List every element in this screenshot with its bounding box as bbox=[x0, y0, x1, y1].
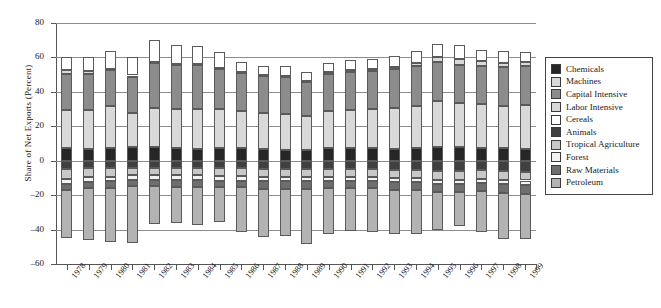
bar-segment bbox=[411, 161, 422, 170]
bar-segment bbox=[454, 59, 465, 65]
bar-segment bbox=[149, 168, 160, 175]
bar-group[interactable] bbox=[127, 23, 138, 264]
bar-group[interactable] bbox=[520, 23, 531, 264]
bar-group[interactable] bbox=[214, 23, 225, 264]
legend-item[interactable]: Animals bbox=[551, 126, 648, 139]
bar-group[interactable] bbox=[367, 23, 378, 264]
bar-segment bbox=[498, 67, 509, 106]
bar-segment bbox=[149, 186, 160, 225]
bar-segment bbox=[105, 161, 116, 169]
bar-segment bbox=[411, 182, 422, 190]
bar-segment bbox=[454, 103, 465, 147]
bar-segment bbox=[411, 148, 422, 161]
legend-item[interactable]: Petroleum bbox=[551, 176, 648, 189]
bar-group[interactable] bbox=[411, 23, 422, 264]
bar-series-layer bbox=[56, 23, 536, 264]
bar-segment bbox=[454, 184, 465, 192]
legend-item-label: Petroleum bbox=[566, 178, 603, 187]
bar-group[interactable] bbox=[498, 23, 509, 264]
legend-item[interactable]: Labor Intensive bbox=[551, 101, 648, 114]
bar-segment bbox=[389, 149, 400, 161]
bar-group[interactable] bbox=[61, 23, 72, 264]
legend-item[interactable]: Raw Materials bbox=[551, 164, 648, 177]
bar-group[interactable] bbox=[323, 23, 334, 264]
bar-segment bbox=[171, 65, 182, 109]
bar-segment bbox=[345, 72, 356, 110]
x-tick-mark bbox=[307, 264, 308, 270]
bar-segment bbox=[498, 106, 509, 148]
bar-segment bbox=[214, 181, 225, 188]
y-tick-label: –60 bbox=[4, 258, 44, 268]
bar-segment bbox=[389, 170, 400, 178]
bar-segment bbox=[83, 71, 94, 74]
bar-segment bbox=[236, 72, 247, 74]
bar-segment bbox=[454, 65, 465, 103]
bar-segment bbox=[258, 169, 269, 177]
legend-item[interactable]: Cereals bbox=[551, 113, 648, 126]
bar-segment bbox=[258, 113, 269, 149]
bar-segment bbox=[192, 46, 203, 64]
bar-group[interactable] bbox=[149, 23, 160, 264]
bar-group[interactable] bbox=[476, 23, 487, 264]
x-tick-mark bbox=[481, 264, 482, 270]
bar-segment bbox=[83, 57, 94, 71]
bar-segment bbox=[149, 62, 160, 64]
bar-group[interactable] bbox=[454, 23, 465, 264]
bar-segment bbox=[83, 149, 94, 161]
bar-segment bbox=[258, 181, 269, 189]
bar-segment bbox=[280, 150, 291, 161]
bar-group[interactable] bbox=[258, 23, 269, 264]
legend-item[interactable]: Forest bbox=[551, 151, 648, 164]
bar-segment bbox=[280, 114, 291, 149]
bar-segment bbox=[345, 148, 356, 161]
legend-item[interactable]: Tropical Agriculture bbox=[551, 139, 648, 152]
bar-segment bbox=[236, 181, 247, 188]
bar-segment bbox=[236, 73, 247, 111]
bar-segment bbox=[476, 170, 487, 179]
bar-segment bbox=[149, 108, 160, 147]
y-tick-label: 0 bbox=[4, 155, 44, 165]
bar-group[interactable] bbox=[345, 23, 356, 264]
x-tick-mark bbox=[351, 264, 352, 270]
bar-group[interactable] bbox=[192, 23, 203, 264]
bar-segment bbox=[520, 161, 531, 172]
x-tick-mark bbox=[329, 264, 330, 270]
bar-segment bbox=[214, 161, 225, 169]
legend-swatch-icon bbox=[551, 64, 561, 74]
bar-group[interactable] bbox=[236, 23, 247, 264]
bar-segment bbox=[236, 148, 247, 161]
bar-segment bbox=[105, 188, 116, 242]
legend-swatch-icon bbox=[551, 89, 561, 99]
legend-item[interactable]: Capital Intensive bbox=[551, 88, 648, 101]
bar-segment bbox=[236, 111, 247, 148]
bar-segment bbox=[476, 161, 487, 170]
bar-segment bbox=[367, 181, 378, 188]
bar-group[interactable] bbox=[105, 23, 116, 264]
bar-group[interactable] bbox=[389, 23, 400, 264]
bar-segment bbox=[323, 161, 334, 170]
bar-segment bbox=[520, 172, 531, 181]
bar-group[interactable] bbox=[83, 23, 94, 264]
bar-group[interactable] bbox=[171, 23, 182, 264]
bar-group[interactable] bbox=[432, 23, 443, 264]
bar-segment bbox=[127, 147, 138, 161]
bar-segment bbox=[171, 64, 182, 66]
legend-item[interactable]: Machines bbox=[551, 76, 648, 89]
bar-segment bbox=[61, 169, 72, 178]
bar-segment bbox=[432, 62, 443, 102]
bar-segment bbox=[280, 161, 291, 170]
legend-swatch-icon bbox=[551, 127, 561, 137]
bar-segment bbox=[258, 189, 269, 237]
bar-segment bbox=[280, 66, 291, 76]
legend-swatch-icon bbox=[551, 115, 561, 125]
bar-segment bbox=[367, 148, 378, 161]
legend-item[interactable]: Chemicals bbox=[551, 63, 648, 76]
bar-group[interactable] bbox=[280, 23, 291, 264]
bar-segment bbox=[236, 62, 247, 72]
bar-segment bbox=[454, 161, 465, 171]
bar-segment bbox=[171, 45, 182, 64]
bar-segment bbox=[520, 62, 531, 66]
y-tick-label: 20 bbox=[4, 120, 44, 130]
bar-segment bbox=[301, 81, 312, 83]
bar-group[interactable] bbox=[301, 23, 312, 264]
